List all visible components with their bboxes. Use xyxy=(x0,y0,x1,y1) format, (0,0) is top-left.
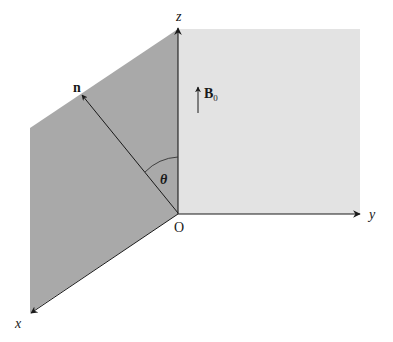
yz-plane xyxy=(178,29,360,214)
field-vector-subscript: 0 xyxy=(213,93,218,103)
z-axis-label: z xyxy=(175,9,182,24)
normal-vector-label: n xyxy=(73,80,81,95)
x-axis-label: x xyxy=(14,316,22,331)
origin-label: O xyxy=(174,220,184,235)
coordinate-diagram: z y x O n B0 θ xyxy=(0,0,393,342)
field-vector-symbol: B xyxy=(204,86,213,101)
y-axis-label: y xyxy=(367,207,376,222)
inclined-plane xyxy=(30,29,178,313)
angle-theta-label: θ xyxy=(160,172,168,187)
